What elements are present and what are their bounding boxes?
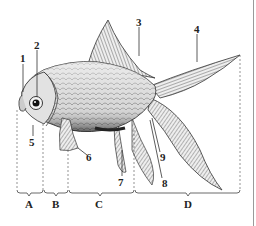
label-4: 4 xyxy=(194,24,200,35)
eye xyxy=(30,97,43,110)
label-2: 2 xyxy=(34,40,40,51)
label-9: 9 xyxy=(160,152,166,163)
fish-diagram: 1 2 3 4 5 6 7 8 9 A B C D xyxy=(0,0,256,226)
segment-label-a: A xyxy=(25,199,33,210)
label-3: 3 xyxy=(136,17,142,28)
label-6: 6 xyxy=(86,152,92,163)
fish-illustration xyxy=(0,0,256,226)
label-1: 1 xyxy=(20,53,26,64)
label-8: 8 xyxy=(162,178,168,189)
segment-label-b: B xyxy=(52,199,59,210)
segment-braces xyxy=(17,190,240,196)
label-7: 7 xyxy=(118,177,124,188)
caudal-fin xyxy=(148,55,240,190)
segment-label-d: D xyxy=(184,199,192,210)
segment-label-c: C xyxy=(95,199,103,210)
label-5: 5 xyxy=(29,137,35,148)
